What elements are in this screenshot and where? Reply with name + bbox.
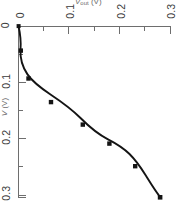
series-markers <box>17 24 163 200</box>
x-axis-title-subscript: out <box>80 0 88 6</box>
x-axis-title-unit: (V) <box>91 0 102 6</box>
x-axis-title: Vout (V) <box>75 0 102 6</box>
data-point-marker <box>17 24 21 28</box>
x-tick-label-2: 0.2 <box>116 0 127 23</box>
data-point-marker <box>133 164 137 168</box>
plot-canvas <box>0 0 182 207</box>
x-tick-label-1: 0.1 <box>65 0 76 23</box>
data-point-marker <box>158 195 163 200</box>
y-tick-label-0: 0 <box>0 17 10 33</box>
data-series-curve <box>17 24 163 200</box>
x-tick-label-0: 0 <box>15 7 26 23</box>
axis-lines <box>18 26 170 197</box>
data-point-marker <box>107 141 111 145</box>
y-axis-title-symbol: V <box>0 111 9 116</box>
data-point-marker <box>49 100 53 104</box>
y-tick-label-3: 0.3 <box>1 181 12 205</box>
data-point-marker <box>26 76 30 80</box>
y-axis-title-unit: (V) <box>0 98 9 109</box>
series-line <box>19 26 161 198</box>
y-axis-title: V (V) <box>1 92 9 122</box>
x-tick-label-3: 0.3 <box>166 0 177 23</box>
chart-figure: 0 0.1 0.2 0.3 0 0.1 0.2 0.3 Vout (V) V (… <box>0 0 182 207</box>
data-point-marker <box>81 122 85 126</box>
top-axis-ticks <box>18 26 170 34</box>
y-tick-label-1: 0.1 <box>1 69 12 93</box>
y-tick-label-2: 0.2 <box>1 125 12 149</box>
data-point-marker <box>19 48 23 52</box>
